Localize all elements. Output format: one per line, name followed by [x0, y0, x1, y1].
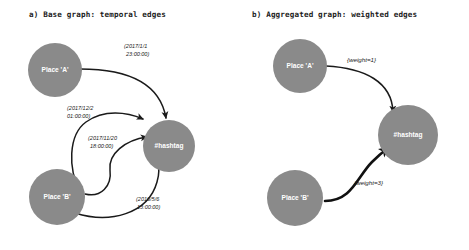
node-place-a-label: Place 'A' — [287, 62, 314, 69]
edge-place-a-to-hashtag-weighted — [326, 66, 393, 112]
edge-label-line2: 01:00:00) — [67, 113, 90, 119]
edge-label-place-b-to-hashtag-1: (2017/12/2 01:00:00) — [67, 105, 93, 119]
node-place-a-label: Place 'A' — [42, 66, 69, 73]
edge-label-line1: (2017/1/1 — [124, 43, 147, 49]
weight-label-place-a: {weight=1} — [347, 56, 376, 63]
node-hashtag: #hashtag — [378, 105, 438, 165]
edge-place-b-to-hashtag-1 — [72, 113, 143, 190]
edge-label-line1: (2017/11/20 — [88, 135, 118, 141]
node-place-b: Place 'B' — [29, 169, 85, 225]
edge-label-line2: 18:00:00) — [90, 143, 113, 149]
edge-label-place-b-to-hashtag-3: (2016/5/6 13:00:00) — [136, 196, 160, 210]
panel-title-base-graph: a) Base graph: temporal edges — [29, 10, 166, 19]
edge-label-place-b-to-hashtag-2: (2017/11/20 18:00:00) — [88, 135, 118, 149]
edge-place-b-to-hashtag-weighted — [325, 148, 388, 201]
edge-label-line1: (2016/5/6 — [136, 196, 160, 202]
figure-canvas: a) Base graph: temporal edges Place 'A' … — [0, 0, 469, 250]
weight-label-place-b: {weight=3} — [354, 179, 383, 186]
node-hashtag: #hashtag — [143, 120, 195, 172]
edge-label-place-a-to-hashtag: (2017/1/1 23:00:00) — [124, 43, 149, 57]
node-place-b: Place 'B' — [267, 170, 323, 226]
node-hashtag-label: #hashtag — [394, 131, 423, 139]
panel-title-aggregated-graph: b) Aggregated graph: weighted edges — [252, 10, 417, 19]
edge-label-line1: (2017/12/2 — [67, 105, 93, 111]
node-place-b-label: Place 'B' — [44, 193, 71, 200]
node-place-a: Place 'A' — [273, 39, 327, 93]
edge-label-line2: 23:00:00) — [125, 51, 149, 57]
node-place-a: Place 'A' — [28, 43, 82, 97]
edge-label-line2: 13:00:00) — [137, 204, 160, 210]
node-place-b-label: Place 'B' — [282, 194, 309, 201]
panel-base-graph: a) Base graph: temporal edges Place 'A' … — [28, 10, 195, 225]
node-hashtag-label: #hashtag — [155, 142, 184, 150]
panel-aggregated-graph: b) Aggregated graph: weighted edges Plac… — [252, 10, 438, 226]
